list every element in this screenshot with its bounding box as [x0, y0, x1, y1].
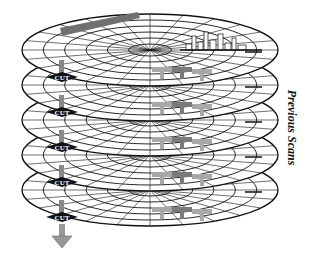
down-arrow-shaft: [59, 224, 65, 236]
cut-label: CUT: [55, 144, 70, 152]
cut-label: CUT: [55, 109, 70, 117]
cut-label: CUT: [55, 74, 70, 82]
previous-scans-text: Previous Scans: [285, 89, 300, 165]
down-arrow-icon: [52, 236, 72, 248]
scan-planes-svg: CUTCUTCUTCUTCUT: [0, 0, 312, 256]
cut-label: CUT: [55, 179, 70, 187]
cut-label: CUT: [55, 214, 70, 222]
scan-stack-diagram: CUTCUTCUTCUTCUT Previous Scans: [0, 0, 312, 256]
previous-scans-label: Previous Scans: [282, 82, 302, 172]
